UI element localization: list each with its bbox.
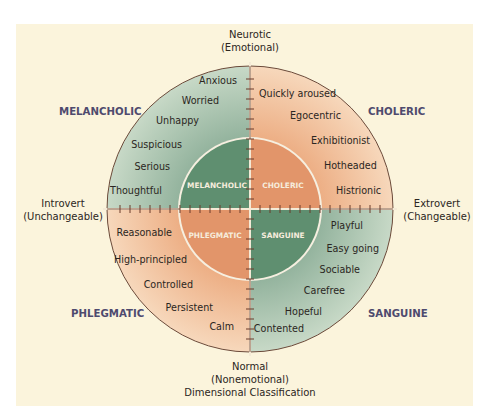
trait-melancholic-1: Anxious (199, 75, 237, 86)
axis-bottom-caption: Dimensional Classification (184, 387, 315, 398)
trait-sanguine-2: Easy going (327, 243, 379, 254)
melancholic-inner-label: MELANCHOLIC (187, 181, 247, 190)
trait-melancholic-4: Suspicious (131, 139, 182, 150)
sanguine-inner-label: SANGUINE (261, 231, 304, 240)
choleric-inner-label: CHOLERIC (262, 181, 304, 190)
axis-bottom-line1: Normal (232, 361, 268, 372)
trait-choleric-2: Egocentric (290, 110, 341, 121)
axis-bottom-line2: (Nonemotional) (211, 374, 289, 385)
melancholic-outer-label: MELANCHOLIC (59, 106, 141, 117)
trait-melancholic-6: Thoughtful (109, 185, 162, 196)
trait-sanguine-5: Hopeful (285, 306, 322, 317)
trait-phlegmatic-3: Controlled (144, 279, 193, 290)
trait-sanguine-6: Contented (254, 323, 304, 334)
trait-sanguine-1: Playful (331, 220, 363, 231)
axis-right-line1: Extrovert (414, 198, 460, 209)
axis-right-line2: (Changeable) (403, 211, 471, 222)
phlegmatic-inner-label: PHLEGMATIC (188, 231, 241, 240)
trait-choleric-1: Quickly aroused (259, 88, 336, 99)
choleric-outer-label: CHOLERIC (368, 106, 425, 117)
trait-phlegmatic-4: Persistent (166, 302, 214, 313)
trait-sanguine-3: Sociable (320, 264, 361, 275)
trait-melancholic-2: Worried (182, 95, 219, 106)
axis-left-line2: (Unchangeable) (23, 211, 103, 222)
phlegmatic-outer-label: PHLEGMATIC (71, 308, 144, 319)
axis-top-line2: (Emotional) (221, 42, 279, 53)
sanguine-outer-label: SANGUINE (368, 308, 428, 319)
trait-phlegmatic-1: Reasonable (116, 227, 172, 238)
trait-melancholic-5: Serious (134, 161, 170, 172)
axis-top-line1: Neurotic (229, 29, 271, 40)
trait-choleric-3: Exhibitionist (311, 135, 370, 146)
trait-melancholic-3: Unhappy (156, 115, 199, 126)
trait-choleric-5: Histrionic (336, 185, 381, 196)
trait-phlegmatic-5: Calm (209, 321, 234, 332)
trait-sanguine-4: Carefree (304, 285, 345, 296)
temperament-diagram: Neurotic (Emotional) Normal (Nonemotiona… (0, 0, 491, 420)
axis-left-line1: Introvert (41, 198, 84, 209)
trait-choleric-4: Hotheaded (324, 160, 377, 171)
trait-phlegmatic-2: High-principled (114, 254, 187, 265)
